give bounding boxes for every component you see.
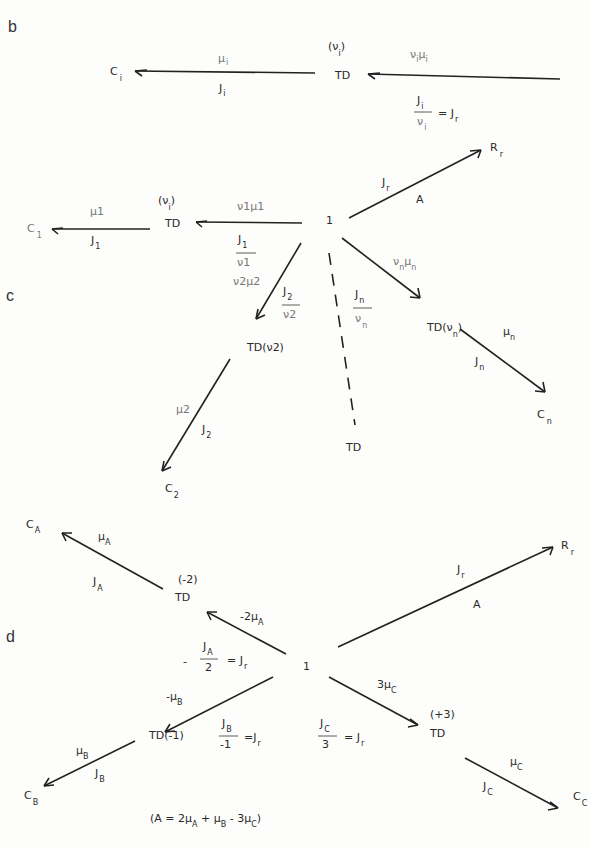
jn-fraction-numerator: Jn xyxy=(354,288,364,305)
panel-d: CA μA JA (-2) TD -2μA - JA 2 = Jr 1 Jr A… xyxy=(24,518,588,829)
bond-1-to-td xyxy=(196,222,302,223)
label-mu-b: μB xyxy=(76,744,89,761)
label-mu2: μ2 xyxy=(176,403,190,416)
label-nu2-mu2: ν2μ2 xyxy=(233,275,260,288)
dashed-bond-1-to-td xyxy=(329,253,355,425)
eq-a-denominator: 2 xyxy=(205,661,212,674)
tda-param: (-2) xyxy=(178,573,198,586)
bond-tdn-to-cn xyxy=(460,329,545,392)
jn-fraction-denominator: νn xyxy=(355,312,367,330)
label-neg2-mu-a: -2μA xyxy=(240,610,264,627)
bond-td-to-ci xyxy=(135,71,315,73)
td1-param: (νi) xyxy=(158,194,175,212)
node-rr: Rr xyxy=(561,539,575,557)
eq-c-numerator: JC xyxy=(319,717,330,734)
j2-fraction-numerator: J2 xyxy=(282,285,292,302)
node-td-dashed: TD xyxy=(345,441,361,454)
bond-1-to-tdc xyxy=(329,677,418,725)
panel-c: C1 μ1 J1 (νi) TD ν1μ1 J1 ν1 1 Jr A Rr ν2… xyxy=(27,141,552,500)
node-1-junction: 1 xyxy=(303,660,310,673)
eq-a-rhs: = Jr xyxy=(227,654,248,671)
eq-c-denominator: 3 xyxy=(322,738,329,751)
node-1-junction: 1 xyxy=(326,214,333,227)
eq-b-denominator: -1 xyxy=(220,738,231,751)
label-mu-c: μC xyxy=(510,755,523,772)
label-mu-a: μA xyxy=(98,530,111,547)
j1-fraction-numerator: J1 xyxy=(237,233,247,250)
panel-label-d: d xyxy=(6,628,15,645)
bond-graph-figure: b Ci μi Ji (νi) TD νiμi Ji νi = Jr c xyxy=(0,0,590,848)
tdc-param: (+3) xyxy=(430,708,455,721)
bond-right-to-td xyxy=(368,74,560,79)
eq-a-minus: - xyxy=(183,655,187,668)
node-c1: C1 xyxy=(27,222,42,240)
j2-fraction-denominator: ν2 xyxy=(283,308,296,321)
node-cn: Cn xyxy=(537,408,552,426)
label-j-a: JA xyxy=(92,575,103,593)
bond-1-to-rr xyxy=(349,150,481,218)
bond-1-to-tdn xyxy=(342,238,420,298)
label-nun-mun: νnμn xyxy=(393,255,416,272)
label-3mu-c: 3μC xyxy=(377,678,397,695)
fraction-denominator: νi xyxy=(417,115,426,132)
label-mu1: μ1 xyxy=(90,205,104,218)
node-tdb: TD(-1) xyxy=(148,729,184,742)
node-tdc: TD xyxy=(429,727,445,740)
eq-a-numerator: JA xyxy=(202,640,213,657)
node-cb: CB xyxy=(24,789,38,807)
node-td2: TD(ν2) xyxy=(246,341,284,354)
node-td1: TD xyxy=(164,217,180,230)
bond-1-to-rr xyxy=(338,547,553,647)
label-mun: μn xyxy=(503,325,515,342)
bond-tdb-to-cb xyxy=(44,741,135,786)
fraction-numerator: Ji xyxy=(416,94,423,111)
equals-jr: = Jr xyxy=(438,107,459,124)
eq-b-rhs: =Jr xyxy=(244,731,261,748)
label-jn: Jn xyxy=(474,355,484,372)
panel-label-b: b xyxy=(8,18,17,35)
label-mu-i: μi xyxy=(218,52,228,67)
node-cc: CC xyxy=(573,790,588,808)
node-c2: C2 xyxy=(165,482,179,500)
bond-tda-to-ca xyxy=(62,533,163,589)
node-td: TD xyxy=(334,69,350,82)
label-jr: Jr xyxy=(456,563,465,580)
arrowhead-icon xyxy=(196,221,207,227)
j1-fraction-denominator: ν1 xyxy=(237,256,250,269)
label-a: A xyxy=(416,193,424,206)
panel-label-c: c xyxy=(6,287,14,304)
label-a: A xyxy=(473,598,481,611)
label-nu-i-mu-i: νiμi xyxy=(410,48,428,64)
label-j1: J1 xyxy=(90,234,100,251)
node-ca: CA xyxy=(26,518,41,535)
arrowhead-icon xyxy=(52,228,63,234)
affinity-equation: (A = 2μA + μB - 3μC) xyxy=(150,812,261,829)
eq-c-rhs: = Jr xyxy=(344,731,365,748)
bond-td2-to-c2 xyxy=(162,359,230,471)
node-ci: Ci xyxy=(110,65,122,83)
label-j-b: JB xyxy=(94,767,105,784)
label-j-i: Ji xyxy=(218,82,225,98)
eq-b-numerator: JB xyxy=(221,717,232,734)
label-nu1-mu1: ν1μ1 xyxy=(237,200,264,213)
label-j-c: JC xyxy=(482,780,493,797)
label-jr: Jr xyxy=(381,176,390,193)
panel-b: Ci μi Ji (νi) TD νiμi Ji νi = Jr xyxy=(110,40,560,132)
arrowhead-icon xyxy=(368,73,380,79)
node-rr: Rr xyxy=(490,141,504,159)
label-neg-mu-b: -μB xyxy=(166,690,182,707)
label-nu-i-param: (νi) xyxy=(328,40,345,58)
label-j2: J2 xyxy=(201,423,211,440)
node-tda: TD xyxy=(174,591,190,604)
arrowhead-icon xyxy=(135,70,147,76)
node-tdn: TD(νn) xyxy=(426,321,462,339)
